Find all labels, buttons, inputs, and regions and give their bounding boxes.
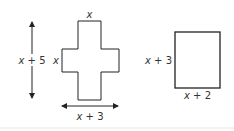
cross-top-label: x bbox=[86, 9, 93, 20]
diagram-canvas: x + 5 x x x + 3 x + 3 x + 2 bbox=[0, 0, 234, 131]
cross-shape bbox=[62, 21, 119, 100]
cross-side-label: x bbox=[52, 55, 59, 66]
cross-width-label: x + 3 bbox=[75, 111, 103, 122]
rectangle-width-label: x + 2 bbox=[183, 90, 211, 101]
rectangle-shape bbox=[175, 32, 220, 88]
cross-height-label: x + 5 bbox=[17, 55, 45, 66]
rectangle-height-label: x + 3 bbox=[144, 55, 172, 66]
